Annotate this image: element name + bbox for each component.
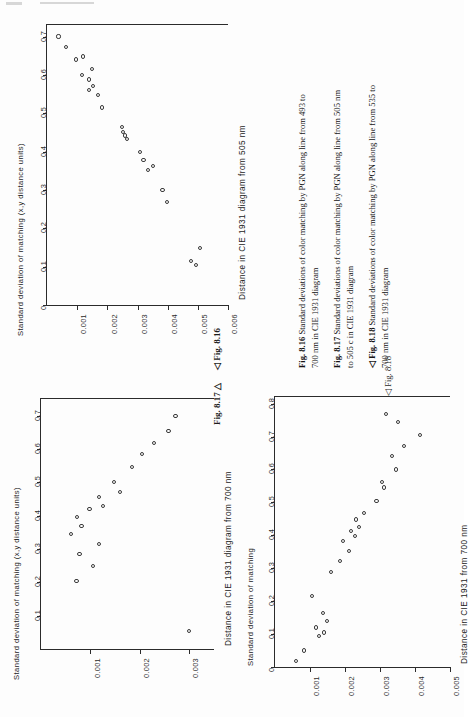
x-axis-tick-label: 0.7 [39, 30, 48, 41]
caption-8-18-line2: 700 nm in CIE 1931 diagram [379, 268, 392, 369]
data-point [380, 480, 384, 484]
x-axis-tick-label: 0.5 [39, 107, 48, 118]
y-axis-tick [140, 649, 141, 654]
data-point [87, 88, 91, 92]
data-point [338, 559, 342, 563]
data-point [97, 542, 101, 546]
x-axis-tick-label: 0.2 [267, 595, 276, 606]
data-point [64, 45, 68, 49]
fig-8-16-y-axis-title: Standard deviation of matching (x,y dist… [12, 487, 21, 680]
x-axis-tick-label: 0.5 [33, 476, 42, 487]
fig-8-16-plot-area [41, 399, 214, 649]
data-point [81, 54, 85, 58]
data-point [173, 414, 177, 418]
data-point [138, 150, 142, 154]
data-point [402, 444, 406, 448]
caption-8-16-cont: 700 nm in CIE 1931 diagram [309, 268, 322, 369]
caption-8-17-prefix: Fig. [332, 354, 342, 368]
y-axis-tick [107, 305, 108, 310]
data-point [341, 539, 345, 543]
data-point [349, 529, 353, 533]
data-point [390, 454, 394, 458]
x-axis-tick-label: 0.2 [33, 576, 42, 587]
data-point [310, 594, 314, 598]
data-point [160, 188, 164, 192]
y-axis-tick [310, 667, 311, 672]
x-axis-tick-label: 0.5 [267, 496, 276, 507]
data-point [130, 465, 134, 469]
y-axis-tick [189, 649, 190, 654]
caption-8-18-prefix: ◁ Fig. [367, 345, 377, 368]
x-axis-tick-label: 0 [39, 306, 48, 310]
y-axis-tick [168, 305, 169, 310]
y-axis-tick [228, 305, 229, 310]
y-axis-tick-label: 0.001 [93, 658, 102, 678]
data-point [87, 507, 91, 511]
caption-8-17-number: 8.17 [332, 337, 342, 352]
y-axis-tick-label: 0.003 [382, 676, 391, 696]
figure-8-16: 0.10.20.30.40.50.60.70.0010.0020.003 Dis… [0, 380, 230, 717]
data-point [91, 84, 95, 88]
y-axis-tick-label: 0.005 [452, 676, 461, 696]
caption-8-17: Fig. 8.17 Standard deviations of color m… [331, 90, 344, 368]
x-axis-tick-label: 0.4 [33, 509, 42, 520]
y-axis-tick [415, 667, 416, 672]
data-point [118, 490, 122, 494]
y-axis-tick-label: 0.003 [140, 314, 149, 334]
fig-8-16-pointer: ◁ Fig. 8.16 [212, 328, 222, 370]
data-point [314, 625, 318, 629]
data-point [69, 532, 73, 536]
data-point [325, 619, 329, 623]
fig-8-18-axes [274, 396, 450, 668]
data-point [294, 659, 298, 663]
caption-8-16-line1: Standard deviations of color matching by… [297, 94, 307, 334]
fig-8-18-x-axis-title: Distance in CIE 1931 from 700 nm [460, 524, 469, 664]
x-axis-tick-label: 0 [267, 668, 276, 672]
x-axis-tick-label: 0.7 [33, 409, 42, 420]
caption-8-18-cont: 700 nm in CIE 1931 diagram [379, 268, 392, 369]
y-axis-tick-label: 0.002 [347, 676, 356, 696]
data-point [357, 525, 361, 529]
data-point [123, 133, 127, 137]
data-point [302, 648, 306, 652]
y-axis-tick [450, 667, 451, 672]
data-point [384, 412, 388, 416]
data-point [353, 534, 357, 538]
y-axis-tick [138, 305, 139, 310]
data-point [140, 452, 144, 456]
x-axis-tick-label: 0.1 [33, 609, 42, 620]
data-point [198, 246, 202, 250]
data-point [91, 564, 95, 568]
fig-8-17-y-axis-title: Standard deviation of matching (x,y dist… [16, 143, 25, 336]
x-axis-tick-label: 0.3 [267, 562, 276, 573]
y-axis-tick-label: 0.005 [200, 314, 209, 334]
caption-8-18-number: 8.18 [367, 328, 377, 343]
fig-8-16-axes [40, 398, 214, 650]
data-point [329, 570, 333, 574]
data-point [382, 485, 386, 489]
data-point [362, 511, 366, 515]
caption-8-17-line2: to 505 c in CIE 1931 diagram [344, 266, 357, 368]
x-axis-tick-label: 0.2 [39, 222, 48, 233]
fig-8-17-axes [46, 24, 228, 306]
caption-8-18-line1: Standard deviations of color matching by… [367, 85, 377, 325]
data-point [347, 549, 351, 553]
data-point [97, 495, 101, 499]
y-axis-tick-label: 0.004 [417, 676, 426, 696]
y-axis-tick-label: 0.003 [191, 658, 200, 678]
y-axis-tick [77, 305, 78, 310]
data-point [322, 630, 326, 634]
caption-8-18: ◁ Fig. 8.18 Standard deviations of color… [366, 85, 379, 368]
data-point [354, 517, 358, 521]
data-point [194, 263, 198, 267]
data-point [152, 441, 156, 445]
data-point [394, 467, 398, 471]
fig-8-18-y-axis-title: Standard deviation of matching [246, 548, 255, 666]
fig-8-17-plot-area [47, 25, 228, 305]
y-axis-tick-label: 0.001 [312, 676, 321, 696]
data-point [112, 480, 116, 484]
data-point [374, 499, 378, 503]
fig-8-17-pointer: Fig. 8.17 △ [212, 383, 222, 425]
data-point [96, 93, 100, 97]
